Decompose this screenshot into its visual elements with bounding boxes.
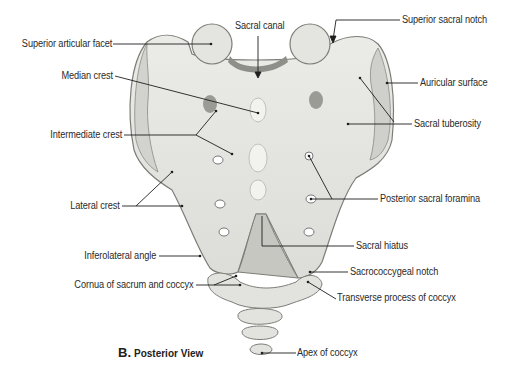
coccyx-third-segment [242, 326, 278, 340]
label-cornua: Cornua of sacrum and coccyx [75, 279, 194, 290]
foramen [304, 228, 314, 236]
label-sacral-tuberosity: Sacral tuberosity [414, 118, 481, 129]
foramen [219, 228, 229, 236]
label-auricular-surface: Auricular surface [420, 77, 487, 88]
coccyx-second-segment [238, 309, 282, 325]
label-sacrococcygeal-notch: Sacrococcygeal notch [350, 266, 438, 277]
coccyx-first-segment [208, 273, 322, 308]
right-superior-articular-facet [290, 24, 330, 64]
label-sacral-canal: Sacral canal [235, 20, 285, 31]
label-apex-of-coccyx: Apex of coccyx [297, 347, 358, 358]
label-superior-articular-facet: Superior articular facet [22, 38, 112, 49]
panel-letter: B. [118, 345, 131, 360]
label-intermediate-crest: Intermediate crest [50, 129, 122, 140]
sacrum-posterior-illustration [0, 0, 508, 377]
foramen [215, 200, 225, 208]
label-transverse-process-coccyx: Transverse process of coccyx [337, 292, 456, 303]
label-inferolateral-angle: Inferolateral angle [84, 250, 156, 261]
figure-caption: B.Posterior View [118, 343, 203, 361]
label-posterior-sacral-foramina: Posterior sacral foramina [380, 193, 480, 204]
foramen [213, 156, 223, 164]
label-sacral-hiatus: Sacral hiatus [356, 240, 408, 251]
panel-title: Posterior View [134, 348, 203, 359]
label-lateral-crest: Lateral crest [71, 200, 120, 211]
label-median-crest: Median crest [61, 70, 113, 81]
label-superior-sacral-notch: Superior sacral notch [402, 14, 487, 25]
